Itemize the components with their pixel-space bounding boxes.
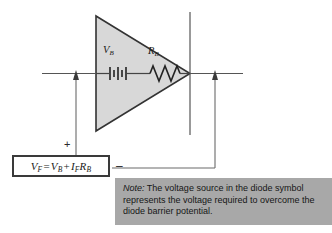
resistor-label: RB xyxy=(148,46,159,57)
explanatory-note-text: Note: The voltage source in the diode sy… xyxy=(123,183,325,218)
note-lead-label: Note: xyxy=(123,183,145,193)
figure-canvas: VB RB + – VF=VB+IFRB Note: The voltage s… xyxy=(0,0,332,233)
forward-voltage-equation-box: VF=VB+IFRB xyxy=(12,155,110,177)
probe-arrow-right-icon xyxy=(212,70,218,80)
forward-voltage-equation-text: VF=VB+IFRB xyxy=(31,160,92,172)
probe-arrow-left-icon xyxy=(73,70,79,80)
explanatory-note-box: Note: The voltage source in the diode sy… xyxy=(115,178,332,225)
note-body-text: The voltage source in the diode symbol r… xyxy=(123,183,315,216)
polarity-minus-sign: – xyxy=(116,160,123,172)
battery-label: VB xyxy=(103,45,114,56)
polarity-plus-sign: + xyxy=(64,139,70,150)
